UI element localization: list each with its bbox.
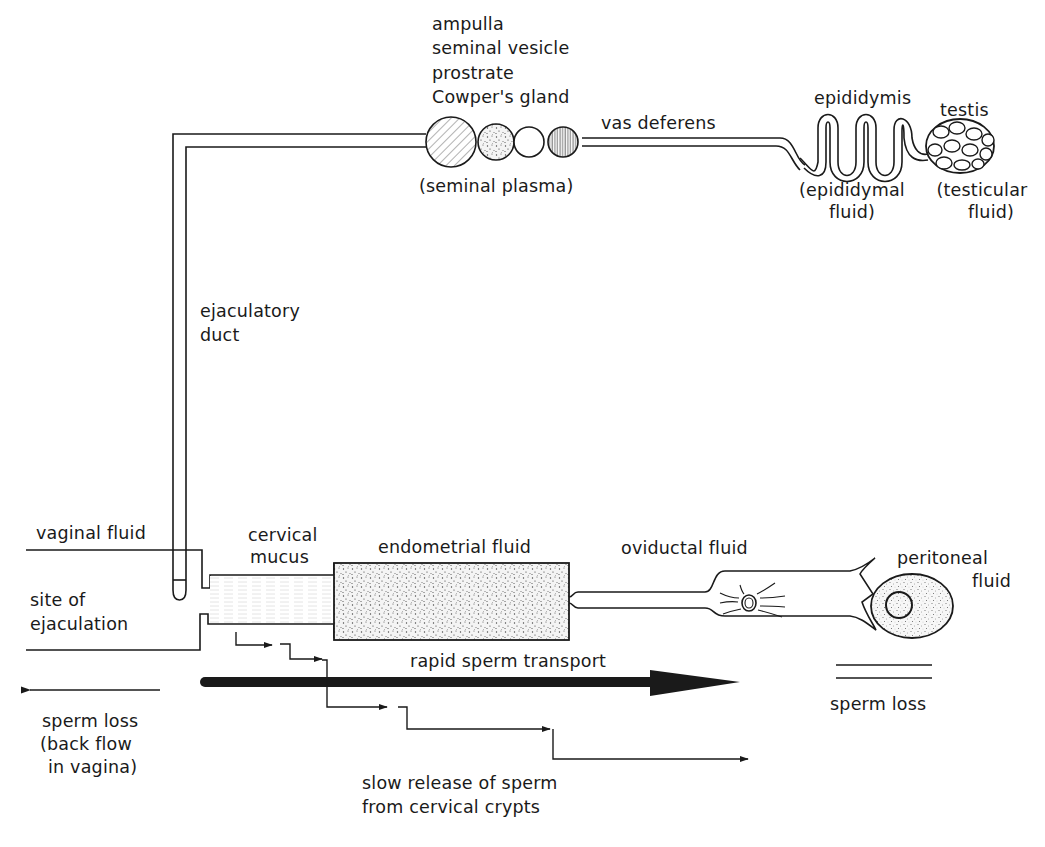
label-testis: testis (940, 100, 989, 121)
label-epididymal-fluid-1: (epididymal (782, 180, 922, 201)
label-ejaculatory-duct-2: duct (200, 325, 239, 346)
label-oviductal-fluid: oviductal fluid (621, 538, 748, 559)
label-seminal-plasma: (seminal plasma) (419, 176, 573, 197)
label-site-of-ejaculation-1: site of (30, 590, 85, 611)
label-ampulla: ampulla (432, 14, 504, 35)
label-vaginal-fluid: vaginal fluid (36, 523, 146, 544)
testis-shape (926, 119, 994, 173)
vas-deferens-tube (582, 138, 805, 170)
label-sperm-loss-left-2: (back flow (40, 734, 132, 755)
peritoneal-loss-lines (836, 665, 932, 678)
accessory-glands (426, 117, 578, 167)
rapid-transport-arrow (200, 670, 740, 696)
label-cervical-mucus-1: cervical (248, 525, 318, 546)
cervical-mucus-region (210, 576, 334, 623)
label-sperm-loss-right: sperm loss (830, 694, 926, 715)
diagram-canvas (0, 0, 1045, 847)
label-peritoneal-fluid-1: peritoneal (897, 548, 988, 569)
oocyte-with-sperm (720, 583, 785, 617)
label-sperm-loss-left-1: sperm loss (42, 711, 138, 732)
label-testicular-fluid-1: (testicular (922, 180, 1042, 201)
label-seminal-vesicle: seminal vesicle (432, 38, 569, 59)
ovary (871, 574, 953, 638)
label-endometrial-fluid: endometrial fluid (378, 537, 531, 558)
label-peritoneal-fluid-2: fluid (972, 571, 1011, 592)
label-sperm-loss-left-3: in vagina) (48, 757, 137, 778)
label-cowpers-gland: Cowper's gland (432, 87, 570, 108)
label-epididymal-fluid-2: fluid) (782, 202, 922, 223)
label-slow-release-1: slow release of sperm (362, 773, 558, 794)
label-epididymis: epididymis (814, 88, 911, 109)
label-vas-deferens: vas deferens (601, 113, 716, 134)
label-prostrate: prostrate (432, 63, 514, 84)
endometrium-cavity (334, 563, 569, 640)
label-slow-release-2: from cervical crypts (362, 797, 540, 818)
label-site-of-ejaculation-2: ejaculation (30, 614, 128, 635)
label-cervical-mucus-2: mucus (250, 547, 309, 568)
label-rapid-sperm-transport: rapid sperm transport (410, 651, 606, 672)
epididymis-coil (800, 115, 928, 182)
label-testicular-fluid-2: fluid) (936, 202, 1045, 223)
label-ejaculatory-duct-1: ejaculatory (200, 301, 300, 322)
